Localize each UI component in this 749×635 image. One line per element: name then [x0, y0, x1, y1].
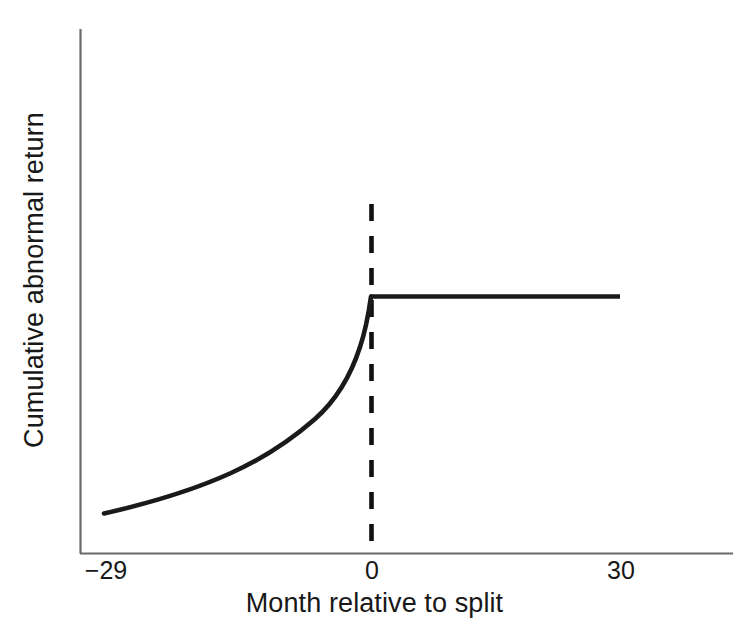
- plot-area: [0, 0, 749, 635]
- x-axis-label: Month relative to split: [0, 588, 749, 619]
- x-tick-label-zero: 0: [365, 556, 379, 585]
- x-tick-label-minus-29: −29: [85, 556, 127, 585]
- pre-split-return-curve: [104, 297, 371, 514]
- chart-figure: Cumulative abnormal return −29 0 30 Mont…: [0, 0, 749, 635]
- x-tick-label-30: 30: [607, 556, 635, 585]
